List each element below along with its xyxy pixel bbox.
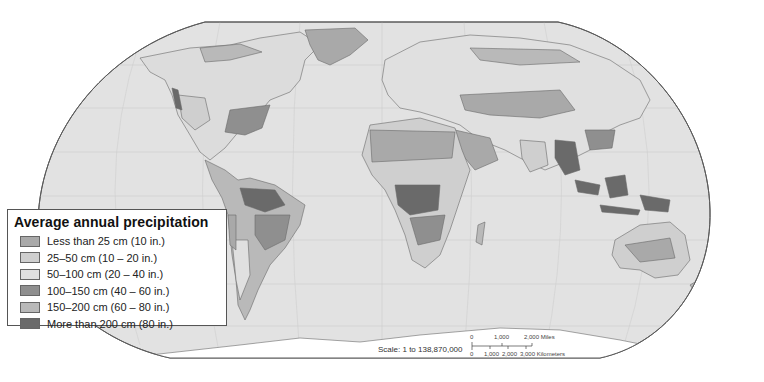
legend-item: 100–150 cm (40 – 60 in.) bbox=[14, 283, 220, 300]
scale-km-1000: 1,000 bbox=[484, 351, 499, 357]
scale-km-0: 0 bbox=[470, 351, 473, 357]
swatch-lt-25cm bbox=[20, 236, 40, 247]
legend-label: More than 200 cm (80 in.) bbox=[47, 318, 173, 330]
scale-miles-0: 0 bbox=[470, 334, 473, 340]
legend-label: 150–200 cm (60 – 80 in.) bbox=[47, 301, 169, 313]
legend-title: Average annual precipitation bbox=[14, 214, 220, 230]
scale-km-2000: 2,000 bbox=[502, 351, 517, 357]
scale-miles-1000: 1,000 bbox=[494, 334, 509, 340]
swatch-100-150cm bbox=[20, 285, 40, 296]
legend-item: 50–100 cm (20 – 40 in.) bbox=[14, 266, 220, 283]
legend-item: More than 200 cm (80 in.) bbox=[14, 316, 220, 333]
swatch-150-200cm bbox=[20, 302, 40, 313]
legend-label: Less than 25 cm (10 in.) bbox=[47, 235, 165, 247]
scale-ratio: Scale: 1 to 138,870,000 bbox=[378, 345, 463, 354]
swatch-50-100cm bbox=[20, 269, 40, 280]
legend-item: Less than 25 cm (10 in.) bbox=[14, 233, 220, 250]
legend: Average annual precipitation Less than 2… bbox=[7, 209, 227, 326]
scale-miles-2000: 2,000 Miles bbox=[524, 334, 555, 340]
swatch-25-50cm bbox=[20, 252, 40, 263]
swatch-gt-200cm bbox=[20, 318, 40, 329]
legend-item: 150–200 cm (60 – 80 in.) bbox=[14, 299, 220, 316]
legend-label: 50–100 cm (20 – 40 in.) bbox=[47, 268, 163, 280]
legend-item: 25–50 cm (10 – 20 in.) bbox=[14, 250, 220, 267]
scale-km-3000: 3,000 Kilometers bbox=[520, 351, 565, 357]
legend-label: 25–50 cm (10 – 20 in.) bbox=[47, 252, 157, 264]
legend-label: 100–150 cm (40 – 60 in.) bbox=[47, 285, 169, 297]
